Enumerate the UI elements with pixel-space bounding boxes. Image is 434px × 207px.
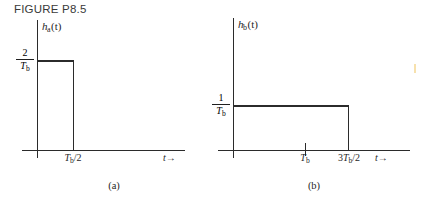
pulse-top-edge-a — [37, 60, 74, 62]
signal-label-b-argument: (t) — [248, 18, 258, 30]
figure-container: FIGURE P8.5 ha(t) 2 Tb Tb/2 t→ (a) — [0, 0, 434, 207]
pulse-top-edge-b — [233, 105, 349, 107]
x-axis-a — [22, 150, 185, 151]
plot-panel-b: hb(t) 1 Tb Tb 3Tb/2 t→ (b) — [200, 0, 434, 207]
y-amplitude-denominator-b: Tb — [212, 106, 230, 117]
signal-label-a: ha(t) — [42, 20, 61, 34]
y-axis-a — [37, 20, 38, 158]
y-amplitude-denominator-a: Tb — [16, 61, 34, 72]
x-axis-arrow-label-b: t→ — [375, 152, 388, 163]
y-axis-b — [233, 18, 234, 158]
x-tick-label-a-0: Tb/2 — [56, 152, 90, 165]
signal-label-b-subscript: b — [243, 23, 247, 32]
plot-panel-a: ha(t) 2 Tb Tb/2 t→ (a) — [0, 0, 210, 207]
subcaption-b: (b) — [294, 180, 334, 191]
signal-label-a-argument: (t) — [51, 20, 61, 32]
x-tick-label-b-0: Tb — [293, 152, 317, 165]
y-amplitude-label-a: 2 Tb — [16, 48, 34, 72]
pulse-falling-edge-a — [73, 60, 75, 151]
pulse-falling-edge-b — [348, 105, 350, 151]
x-tick-label-b-1: 3Tb/2 — [328, 152, 370, 165]
y-amplitude-label-b: 1 Tb — [212, 93, 230, 117]
y-amplitude-numerator-b: 1 — [212, 93, 230, 104]
subcaption-a: (a) — [94, 180, 134, 191]
scan-artifact — [414, 64, 416, 73]
y-amplitude-numerator-a: 2 — [16, 48, 34, 59]
signal-label-b: hb(t) — [238, 18, 258, 32]
x-axis-arrow-label-a: t→ — [163, 152, 176, 163]
